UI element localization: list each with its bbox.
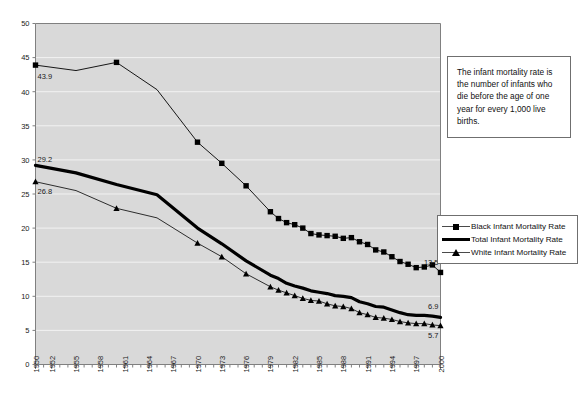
x-axis-tick-label: 1955 <box>72 356 81 373</box>
data-point-marker-square <box>284 220 289 225</box>
data-point-marker-square <box>438 270 443 275</box>
data-label-white-start: 26.8 <box>38 187 53 196</box>
x-axis-tick-label: 1991 <box>364 356 373 373</box>
y-axis-tick-label: 5 <box>25 326 29 335</box>
y-axis-tick-label: 20 <box>21 224 29 233</box>
data-point-marker-square <box>33 62 38 67</box>
data-point-marker-square <box>333 234 338 239</box>
data-point-marker-square <box>316 232 321 237</box>
legend-item-white: White Infant Mortality Rate <box>442 246 574 259</box>
data-point-marker-square <box>219 161 224 166</box>
x-axis-tick-label: 1964 <box>145 356 154 373</box>
data-point-marker-square <box>405 262 410 267</box>
data-point-marker-square <box>243 183 248 188</box>
x-axis-tick-label: 1976 <box>242 356 251 373</box>
y-axis-tick-label: 40 <box>21 88 29 97</box>
data-point-marker-square <box>300 225 305 230</box>
annotation-text-box: The infant mortality rate is the number … <box>447 56 571 138</box>
y-axis-tick-label: 50 <box>21 19 29 28</box>
data-label-white-end: 5.7 <box>428 331 438 340</box>
data-point-marker-square <box>373 247 378 252</box>
data-point-marker-square <box>195 139 200 144</box>
annotation-text: The infant mortality rate is the number … <box>457 67 552 126</box>
legend-label-black: Black Infant Mortality Rate <box>470 222 565 231</box>
legend-label-white: White Infant Mortality Rate <box>470 248 566 257</box>
y-axis-tick-label: 15 <box>21 258 29 267</box>
x-axis-tick-label: 1973 <box>218 356 227 373</box>
data-point-marker-square <box>397 259 402 264</box>
data-label-total-end: 6.9 <box>428 302 438 311</box>
y-axis-tick-label: 25 <box>21 190 29 199</box>
x-axis-tick-label: 1970 <box>194 356 203 373</box>
data-point-marker-square <box>268 209 273 214</box>
x-axis-tick-label: 1961 <box>121 356 130 373</box>
x-axis-tick-label: 1950 <box>32 356 41 373</box>
x-axis-tick-label: 1985 <box>315 356 324 373</box>
data-point-marker-square <box>276 216 281 221</box>
y-axis-tick-label: 35 <box>21 122 29 131</box>
data-point-marker-square <box>357 239 362 244</box>
y-axis-tick-label: 10 <box>21 292 29 301</box>
data-point-marker-square <box>292 222 297 227</box>
chart-legend: Black Infant Mortality Rate Total Infant… <box>437 215 578 264</box>
data-point-marker-square <box>341 236 346 241</box>
x-axis-tick-label: 1982 <box>291 356 300 373</box>
data-point-marker-square <box>389 254 394 259</box>
legend-swatch-triangle-icon <box>442 247 470 258</box>
x-axis-tick-label: 1958 <box>96 356 105 373</box>
x-axis-tick-label: 1979 <box>266 356 275 373</box>
x-axis-tick-label: 1988 <box>339 356 348 373</box>
data-point-marker-square <box>308 231 313 236</box>
x-axis-tick-label: 1952 <box>48 356 57 373</box>
legend-swatch-square-icon <box>442 221 470 232</box>
infant-mortality-chart: 0510152025303540455019501952195519581961… <box>0 0 586 416</box>
x-axis-tick-label: 1967 <box>169 356 178 373</box>
x-axis-tick-label: 1997 <box>412 356 421 373</box>
legend-item-total: Total Infant Mortality Rate <box>442 233 574 246</box>
data-point-marker-square <box>324 233 329 238</box>
y-axis-tick-label: 0 <box>25 360 29 369</box>
data-point-marker-square <box>414 265 419 270</box>
x-axis-tick-label: 1994 <box>388 356 397 373</box>
data-label-total-start: 29.2 <box>38 155 53 164</box>
y-axis-tick-label: 30 <box>21 156 29 165</box>
x-axis-tick-label: 2000 <box>437 356 446 373</box>
data-point-marker-square <box>114 60 119 65</box>
data-point-marker-square <box>365 242 370 247</box>
data-point-marker-square <box>381 249 386 254</box>
y-axis-tick-label: 45 <box>21 53 29 62</box>
data-point-marker-square <box>349 235 354 240</box>
data-label-black-start: 43.9 <box>38 72 53 81</box>
legend-swatch-thick-line-icon <box>442 234 470 245</box>
legend-item-black: Black Infant Mortality Rate <box>442 220 574 233</box>
legend-label-total: Total Infant Mortality Rate <box>470 235 563 244</box>
